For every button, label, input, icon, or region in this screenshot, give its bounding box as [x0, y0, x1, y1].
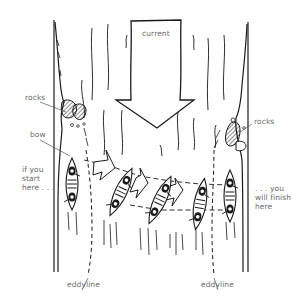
eddyline-right-label: eddyline	[201, 280, 234, 289]
eddyline-left	[86, 150, 92, 275]
finish-label: . . . you will finish here	[255, 184, 291, 211]
diagram-drawing	[0, 0, 303, 302]
start-label: if you start here . . .	[22, 165, 54, 192]
current-label: current	[142, 29, 170, 38]
eddyline-right	[212, 150, 214, 275]
rocks-left-label: rocks	[25, 93, 45, 102]
rocks-right-label: rocks	[254, 117, 274, 126]
rocks-right	[214, 118, 246, 151]
ferry-diagram: current rocks rocks bow if you start her…	[0, 0, 303, 302]
eddyline-left-label: eddyline	[67, 280, 100, 289]
left-bank	[54, 20, 64, 272]
canoe-5	[222, 170, 238, 222]
bow-label: bow	[30, 130, 46, 139]
rocks-left	[61, 100, 88, 146]
canoe-4	[188, 177, 213, 231]
canoe-1	[64, 158, 80, 210]
